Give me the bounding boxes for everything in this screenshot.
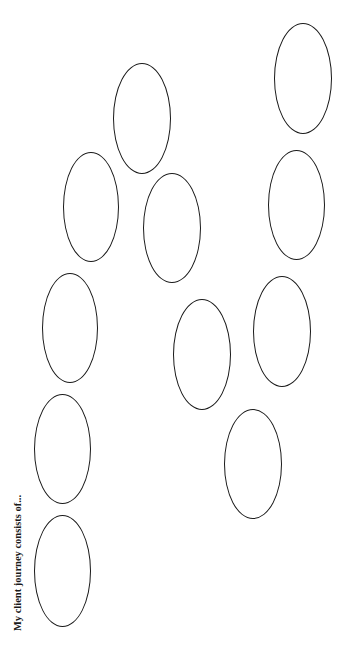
journey-oval-9 [253, 276, 311, 387]
journey-oval-5 [113, 63, 171, 174]
journey-oval-10 [268, 150, 325, 260]
worksheet-page: My client journey consists of... [0, 0, 343, 648]
journey-oval-11 [274, 23, 332, 134]
journey-oval-2 [34, 394, 91, 504]
journey-oval-4 [63, 152, 119, 262]
journey-oval-1 [34, 515, 91, 627]
journey-oval-3 [42, 273, 98, 383]
journey-oval-8 [224, 409, 282, 519]
journey-oval-7 [173, 299, 231, 410]
journey-oval-6 [143, 173, 201, 283]
worksheet-heading: My client journey consists of... [12, 495, 23, 631]
